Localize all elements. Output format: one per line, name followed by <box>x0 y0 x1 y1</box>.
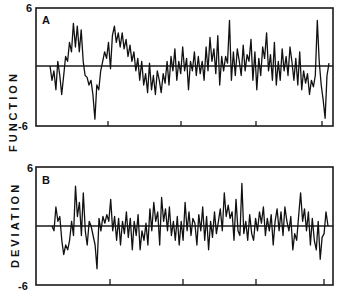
panel-a: A 6 -6 FUNCTION <box>7 2 333 152</box>
panel-a-ymin-label: -6 <box>18 120 28 132</box>
panel-a-ymax-label: 6 <box>26 2 32 14</box>
figure: A 6 -6 FUNCTION B 6 -6 DEVIATION <box>0 0 344 296</box>
panel-b-x-ticks <box>110 279 324 285</box>
panel-b-y-axis-title: DEVIATION <box>9 182 21 268</box>
panel-b-ymin-label: -6 <box>18 280 28 292</box>
panel-a-y-axis-title: FUNCTION <box>7 71 19 152</box>
panel-b: B 6 -6 DEVIATION <box>9 162 333 292</box>
panel-b-label: B <box>42 174 50 186</box>
panel-b-ymax-label: 6 <box>27 162 33 174</box>
panel-a-trace <box>50 20 329 119</box>
panel-a-label: A <box>42 14 50 26</box>
